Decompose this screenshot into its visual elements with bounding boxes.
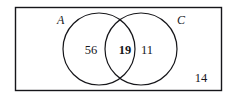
- set-label-c: C: [177, 14, 185, 26]
- set-label-a: A: [57, 14, 64, 26]
- count-a-only: 56: [76, 44, 106, 57]
- count-c-only: 11: [132, 44, 162, 57]
- venn-diagram-figure: A C 56 19 11 14: [0, 0, 235, 99]
- count-outside-sets: 14: [190, 72, 212, 85]
